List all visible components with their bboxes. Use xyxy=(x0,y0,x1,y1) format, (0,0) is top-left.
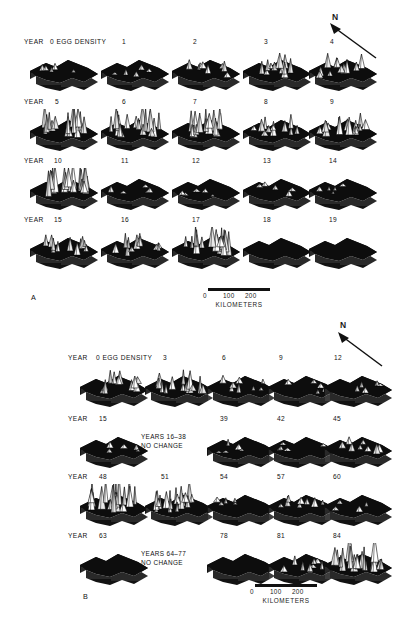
surface-plot xyxy=(305,109,381,155)
panel-b-row-2: YEAR 15 39 42 45 YEARS 16–38NO CHANGE xyxy=(0,415,403,473)
scale-bar-numbers: 0 100 200 xyxy=(240,588,332,597)
row-plots xyxy=(0,49,403,96)
scale-units-label: KILOMETERS xyxy=(240,597,332,604)
cell-label: 63 xyxy=(99,532,107,539)
cell-label: 84 xyxy=(333,532,341,539)
row-lead-label: YEAR xyxy=(24,216,44,223)
surface-plot xyxy=(239,168,315,214)
panel-a-row-1: YEAR 0 EGG DENSITY 1 2 3 4 xyxy=(0,38,403,96)
row-plots xyxy=(0,484,403,531)
cell-label: 6 xyxy=(222,354,226,361)
surface-plot xyxy=(239,109,315,155)
surface-plot xyxy=(97,227,173,273)
cell-label: 7 xyxy=(193,98,197,105)
scale-bar-line xyxy=(208,288,270,291)
cell-label: 10 xyxy=(54,157,62,164)
cell-label: 12 xyxy=(192,157,200,164)
row-plots xyxy=(0,168,403,215)
cell-label: 4 xyxy=(330,38,334,45)
surface-plot xyxy=(97,109,173,155)
row-lead-label: YEAR xyxy=(68,354,88,361)
cell-label: 12 xyxy=(334,354,342,361)
cell-label: 9 xyxy=(330,98,334,105)
egg-density-label: 0 EGG DENSITY xyxy=(50,38,106,45)
row-plots xyxy=(0,543,403,590)
cell-label: 17 xyxy=(192,216,200,223)
surface-plot xyxy=(320,484,396,530)
cell-label: 15 xyxy=(99,415,107,422)
surface-plot xyxy=(26,109,102,155)
surface-plot xyxy=(168,109,244,155)
scale-tick-0: 0 xyxy=(250,588,254,595)
panel-b-row-4: YEAR 63 78 81 84 YEARS 64–77NO CHANGE xyxy=(0,532,403,590)
surface-plot xyxy=(320,543,396,589)
cell-label: 48 xyxy=(99,473,107,480)
cell-label: 51 xyxy=(161,473,169,480)
row-plots xyxy=(0,109,403,156)
row-lead-label: YEAR xyxy=(68,473,88,480)
scale-units-label: KILOMETERS xyxy=(193,301,285,308)
row-lead-label: YEAR xyxy=(68,415,88,422)
cell-label: 15 xyxy=(54,216,62,223)
cell-label: 42 xyxy=(277,415,285,422)
cell-label: 2 xyxy=(193,38,197,45)
panel-a-row-4: YEAR 15 16 17 18 19 xyxy=(0,216,403,274)
cell-label: 6 xyxy=(122,98,126,105)
row-lead-label: YEAR xyxy=(24,38,44,45)
cell-label: 3 xyxy=(264,38,268,45)
surface-plot xyxy=(26,227,102,273)
cell-label: 60 xyxy=(333,473,341,480)
surface-plot xyxy=(168,168,244,214)
row-lead-label: YEAR xyxy=(68,532,88,539)
surface-plot xyxy=(168,227,244,273)
row-lead-label: YEAR xyxy=(24,157,44,164)
cell-label: 18 xyxy=(263,216,271,223)
panel-letter-b: B xyxy=(83,592,88,601)
cell-label: 13 xyxy=(263,157,271,164)
panel-a-row-3: YEAR 10 11 12 13 14 xyxy=(0,157,403,215)
surface-plot xyxy=(97,168,173,214)
surface-plot xyxy=(320,365,396,411)
no-change-note: YEARS 64–77NO CHANGE xyxy=(141,549,186,567)
panel-b: N YEAR 0 EGG DENSITY 3 6 9 12 xyxy=(0,320,403,619)
no-change-note: YEARS 16–38NO CHANGE xyxy=(141,432,186,450)
scale-tick-100: 100 xyxy=(270,588,282,595)
row-plots xyxy=(0,365,403,412)
surface-plot xyxy=(305,49,381,95)
surface-plot xyxy=(305,168,381,214)
row-plots xyxy=(0,227,403,274)
scale-bar-numbers: 0 100 200 xyxy=(193,292,285,301)
scale-bar-line xyxy=(255,584,317,587)
cell-label: 8 xyxy=(264,98,268,105)
panel-b-row-1: YEAR 0 EGG DENSITY 3 6 9 12 xyxy=(0,354,403,412)
surface-plot xyxy=(168,49,244,95)
panel-a: N YEAR 0 EGG DENSITY 1 2 3 4 xyxy=(0,0,403,320)
scale-tick-0: 0 xyxy=(203,292,207,299)
cell-label: 9 xyxy=(279,354,283,361)
panel-letter-a: A xyxy=(31,293,36,302)
cell-label: 1 xyxy=(122,38,126,45)
scale-bar-panel-a: 0 100 200 KILOMETERS xyxy=(193,288,285,308)
row-plots xyxy=(0,426,403,473)
cell-label: 3 xyxy=(163,354,167,361)
cell-label: 45 xyxy=(333,415,341,422)
panel-a-row-2: YEAR 5 6 7 8 9 xyxy=(0,98,403,156)
surface-plot xyxy=(305,227,381,273)
surface-plot xyxy=(97,49,173,95)
surface-plot xyxy=(239,227,315,273)
surface-plot xyxy=(26,49,102,95)
scale-tick-200: 200 xyxy=(292,588,304,595)
panel-b-row-3: YEAR 48 51 54 57 60 xyxy=(0,473,403,531)
cell-label: 11 xyxy=(121,157,129,164)
cell-label: 57 xyxy=(277,473,285,480)
cell-label: 81 xyxy=(277,532,285,539)
scale-tick-200: 200 xyxy=(245,292,257,299)
surface-plot xyxy=(320,426,396,472)
cell-label: 54 xyxy=(220,473,228,480)
figure-root: N YEAR 0 EGG DENSITY 1 2 3 4 xyxy=(0,0,403,619)
cell-label: 39 xyxy=(220,415,228,422)
egg-density-label: 0 EGG DENSITY xyxy=(96,354,152,361)
row-lead-label: YEAR xyxy=(24,98,44,105)
cell-label: 19 xyxy=(329,216,337,223)
surface-plot xyxy=(239,49,315,95)
